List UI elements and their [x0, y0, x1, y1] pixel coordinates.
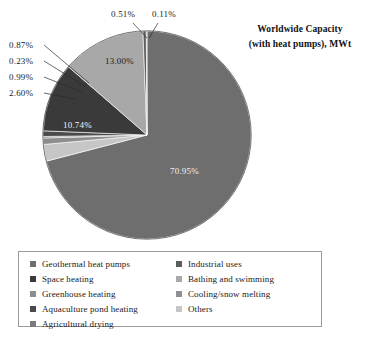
legend-item-greenhouse-heating[interactable]: Greenhouse heating — [30, 287, 180, 301]
legend-swatch-icon — [176, 306, 182, 312]
slice-label-agricultural-drying: 0.23% — [9, 56, 33, 66]
legend-label: Bathing and swimming — [188, 273, 274, 285]
slice-label-aquaculture-pond-heating: 0.87% — [9, 40, 33, 50]
legend-item-bathing-and-swimming[interactable]: Bathing and swimming — [176, 272, 321, 286]
legend-swatch-icon — [30, 276, 36, 282]
slice-label-industrial-uses: 0.51% — [111, 9, 135, 19]
legend: Geothermal heat pumpsSpace heatingGreenh… — [18, 251, 322, 327]
legend-item-space-heating[interactable]: Space heating — [30, 272, 180, 286]
legend-label: Agricultural drying — [42, 318, 114, 330]
legend-column-right: Industrial usesBathing and swimmingCooli… — [176, 257, 321, 317]
slice-label-others: 2.60% — [9, 88, 33, 98]
legend-swatch-icon — [30, 261, 36, 267]
legend-label: Others — [188, 303, 213, 315]
legend-swatch-icon — [30, 291, 36, 297]
slice-label-geothermal-heat-pumps: 70.95% — [170, 166, 199, 176]
legend-label: Aquaculture pond heating — [42, 303, 138, 315]
legend-column-left: Geothermal heat pumpsSpace heatingGreenh… — [30, 257, 180, 332]
legend-label: Space heating — [42, 273, 94, 285]
slice-label-space-heating: 10.74% — [63, 120, 92, 130]
legend-label: Greenhouse heating — [42, 288, 116, 300]
legend-item-geothermal-heat-pumps[interactable]: Geothermal heat pumps — [30, 257, 180, 271]
legend-item-aquaculture-pond-heating[interactable]: Aquaculture pond heating — [30, 302, 180, 316]
legend-label: Cooling/snow melting — [188, 288, 270, 300]
legend-item-agricultural-drying[interactable]: Agricultural drying — [30, 317, 180, 331]
legend-swatch-icon — [176, 261, 182, 267]
legend-swatch-icon — [176, 276, 182, 282]
legend-item-cooling-snow-melting[interactable]: Cooling/snow melting — [176, 287, 321, 301]
pie-svg — [41, 29, 253, 241]
slice-label-bathing-and-swimming: 13.00% — [105, 56, 134, 66]
legend-swatch-icon — [30, 321, 36, 327]
chart-page: Worldwide Capacity (with heat pumps), MW… — [0, 0, 373, 346]
legend-item-others[interactable]: Others — [176, 302, 321, 316]
legend-grid: Geothermal heat pumpsSpace heatingGreenh… — [19, 252, 321, 326]
pie-chart — [41, 29, 253, 241]
slice-label-greenhouse-heating: 0.99% — [9, 72, 33, 82]
legend-swatch-icon — [30, 306, 36, 312]
legend-swatch-icon — [176, 291, 182, 297]
legend-item-industrial-uses[interactable]: Industrial uses — [176, 257, 321, 271]
pie-slice-group — [43, 31, 251, 239]
legend-label: Geothermal heat pumps — [42, 258, 130, 270]
slice-label-cooling-snow-melting: 0.11% — [152, 9, 176, 19]
legend-label: Industrial uses — [188, 258, 242, 270]
